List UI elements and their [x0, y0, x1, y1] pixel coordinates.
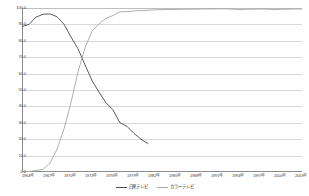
x-axis-tick: 1976年 [106, 174, 118, 178]
x-axis-tick: 1988年 [190, 174, 202, 178]
series-line-bw-tv [22, 14, 148, 144]
x-axis-tick: 1970年 [64, 174, 76, 178]
x-axis-tick: 1979年 [127, 174, 139, 178]
x-axis-tick: 2003年 [295, 174, 307, 178]
x-axis-tick: 1994年 [232, 174, 244, 178]
x-axis-tick: 1997年 [253, 174, 265, 178]
x-axis-tick: 1985年 [169, 174, 181, 178]
x-axis-tick: 1967年 [43, 174, 55, 178]
legend-item-color-tv: カラーテレビ [157, 185, 193, 190]
x-axis-tick: 1964年 [22, 174, 34, 178]
x-axis-tick: 1991年 [211, 174, 223, 178]
x-axis-tick: 2000年 [274, 174, 286, 178]
x-axis-tick: 1982年 [148, 174, 160, 178]
diffusion-rate-line-chart: 100.090.080.070.060.050.040.030.020.010.… [0, 0, 309, 196]
series-line-color-tv [22, 9, 302, 172]
legend-swatch-color-tv [157, 187, 168, 188]
x-axis-tick: 1973年 [85, 174, 97, 178]
legend-swatch-bw-tv [116, 187, 127, 188]
series-plot [22, 8, 302, 172]
legend-label-color-tv: カラーテレビ [170, 185, 193, 190]
legend-item-bw-tv: 白黒テレビ [116, 185, 149, 190]
chart-legend: 白黒テレビ カラーテレビ [0, 185, 309, 190]
legend-label-bw-tv: 白黒テレビ [129, 185, 149, 190]
